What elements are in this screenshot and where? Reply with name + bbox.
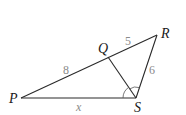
side-label-RS: 6: [149, 63, 155, 77]
side-label-PQ: 8: [63, 63, 69, 77]
side-label-QR: 5: [125, 34, 131, 48]
vertex-label-P: P: [8, 91, 18, 106]
angle-arc-PSQ: [123, 87, 129, 98]
triangle-diagram: P Q R S 8 5 6 x: [0, 0, 186, 115]
segment-QS: [108, 57, 136, 98]
angle-arc-QSR: [130, 87, 140, 89]
vertex-label-R: R: [160, 26, 170, 41]
segment-PR: [21, 35, 157, 98]
vertex-label-Q: Q: [98, 41, 108, 56]
vertex-label-S: S: [134, 100, 141, 115]
side-label-PS: x: [75, 100, 82, 114]
